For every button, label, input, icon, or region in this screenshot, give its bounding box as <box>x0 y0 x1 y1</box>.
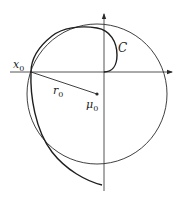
diagram-canvas: C x0 r0 μ0 <box>0 0 180 202</box>
center-point-mu0 <box>95 92 98 95</box>
label-mu0: μ0 <box>86 98 98 113</box>
radius-line <box>31 72 97 94</box>
label-x0: x0 <box>13 58 24 73</box>
label-r0: r0 <box>53 84 63 99</box>
label-curve-c: C <box>118 41 127 55</box>
diagram-svg: C x0 r0 μ0 <box>0 0 180 202</box>
